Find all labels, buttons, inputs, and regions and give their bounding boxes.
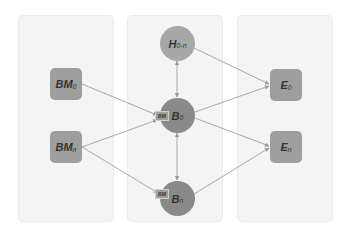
edge-b0-en	[195, 118, 269, 146]
node-e0-label: E	[280, 79, 287, 91]
node-bmn: BMn	[50, 131, 82, 163]
edge-bmn-b0	[82, 120, 157, 147]
node-b0-bm-tag: BM	[155, 111, 169, 121]
node-h0n-subscript: 0-n	[176, 42, 186, 49]
node-e0: E0	[270, 69, 302, 101]
edge-bmn-bn	[82, 147, 158, 193]
node-en-subscript: n	[288, 146, 292, 153]
node-b0-subscript: 0	[180, 114, 184, 121]
node-b0-label: B	[172, 110, 180, 122]
node-h0n-label: H	[168, 38, 176, 50]
node-bmn-label: BM	[55, 141, 72, 153]
node-bm0-label: BM	[55, 78, 72, 90]
edge-bm0-b0	[82, 84, 157, 115]
edge-h0n-e0	[194, 48, 269, 84]
node-bn-subscript: n	[180, 197, 184, 204]
node-bn-label: B	[172, 193, 180, 205]
node-en: En	[270, 131, 302, 163]
node-bm0-subscript: 0	[73, 83, 77, 90]
node-h0n: H0-n	[160, 26, 195, 61]
node-e0-subscript: 0	[288, 84, 292, 91]
edge-bn-en	[194, 148, 269, 194]
edge-b0-e0	[195, 86, 269, 112]
node-bmn-subscript: n	[73, 146, 77, 153]
node-en-label: E	[280, 141, 287, 153]
node-bm0: BM0	[50, 68, 82, 100]
node-bn-bm-tag: BM	[155, 189, 169, 199]
